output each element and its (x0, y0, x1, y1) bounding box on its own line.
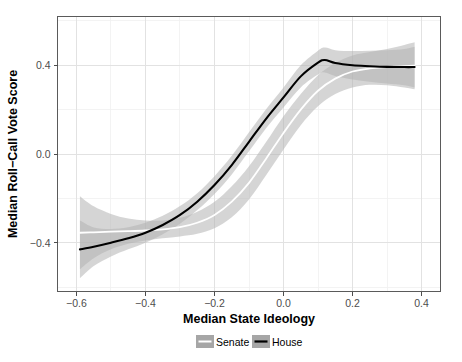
x-tick-label: −0.4 (135, 297, 156, 309)
x-tick-label: 0.4 (414, 297, 429, 309)
legend: Senate House (196, 335, 303, 348)
x-tick-label: −0.6 (66, 297, 87, 309)
legend-label-house: House (272, 336, 303, 348)
y-tick-label: −0.4 (30, 237, 51, 249)
x-tick-label: 0.0 (276, 297, 291, 309)
x-axis-title: Median State Ideology (183, 312, 315, 326)
legend-label-senate: Senate (216, 336, 249, 348)
plot-panel (58, 17, 441, 292)
y-tick-label: 0.0 (36, 148, 51, 160)
y-axis-title: Median Roll−Call Vote Score (6, 70, 20, 238)
roll-call-vote-scatter-plot: −0.6−0.4−0.20.00.20.4 0.40.0−0.4 Median … (0, 0, 462, 362)
x-tick-label: −0.2 (204, 297, 225, 309)
x-tick-label: 0.2 (345, 297, 360, 309)
chart-container: −0.6−0.4−0.20.00.20.4 0.40.0−0.4 Median … (0, 0, 462, 362)
y-tick-label: 0.4 (36, 59, 51, 71)
